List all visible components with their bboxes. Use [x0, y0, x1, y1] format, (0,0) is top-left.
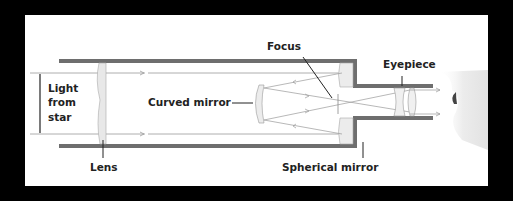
- label-light-from-star-2: from: [48, 96, 76, 108]
- reflected-rays: [264, 73, 410, 134]
- lens-shape: [97, 63, 106, 144]
- label-spherical-mirror: Spherical mirror: [282, 161, 379, 173]
- eyepiece-lenses: [394, 88, 416, 116]
- label-eyepiece: Eyepiece: [383, 58, 436, 70]
- label-light-from-star-3: star: [48, 111, 72, 123]
- curved-mirror-shape: [256, 85, 265, 123]
- label-lens: Lens: [90, 161, 118, 173]
- label-curved-mirror: Curved mirror: [148, 96, 232, 108]
- focus-pointer: [303, 57, 332, 98]
- observer-face: [438, 70, 488, 150]
- telescope-diagram: Light from star Lens Curved mirror Focus…: [0, 0, 513, 201]
- label-focus: Focus: [267, 40, 301, 52]
- label-light-from-star-1: Light: [48, 82, 78, 94]
